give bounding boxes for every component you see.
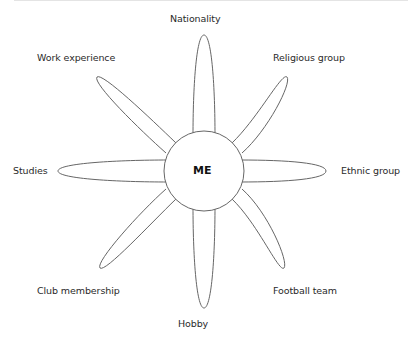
petal-studies (58, 160, 168, 182)
label-studies: Studies (13, 165, 48, 176)
label-hobby: Hobby (178, 318, 208, 329)
label-club-membership: Club membership (37, 285, 120, 296)
petal-football-team (232, 189, 285, 268)
petal-nationality (193, 35, 215, 135)
petal-hobby (193, 207, 215, 308)
label-football-team: Football team (273, 285, 337, 296)
label-nationality: Nationality (170, 13, 220, 24)
label-ethnic-group: Ethnic group (341, 165, 400, 176)
center-label: ME (193, 164, 211, 177)
label-religious-group: Religious group (273, 52, 345, 63)
petal-ethnic-group (240, 160, 326, 182)
petal-club-membership (100, 189, 176, 268)
petal-religious-group (232, 77, 288, 153)
petal-work-experience (97, 77, 176, 153)
label-work-experience: Work experience (37, 52, 115, 63)
